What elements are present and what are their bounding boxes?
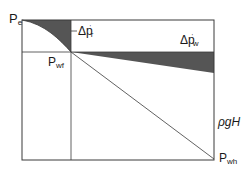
label-pwh: Pwh (219, 152, 237, 166)
reservoir-drop-region (22, 20, 71, 52)
label-rho-g-h: ρgH (218, 116, 240, 128)
label-pe: Pe (9, 12, 22, 27)
pressure-diagram (0, 0, 248, 193)
label-delta-pr: Δp'r (78, 24, 94, 39)
label-delta-pw: Δp'w (180, 33, 199, 48)
label-pwf: Pwf (48, 56, 64, 70)
wellbore-drop-region (71, 52, 214, 73)
